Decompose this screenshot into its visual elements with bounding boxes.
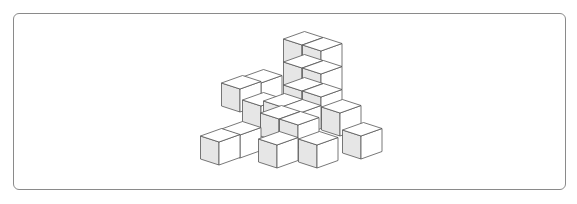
- cube-diagram: [0, 0, 577, 204]
